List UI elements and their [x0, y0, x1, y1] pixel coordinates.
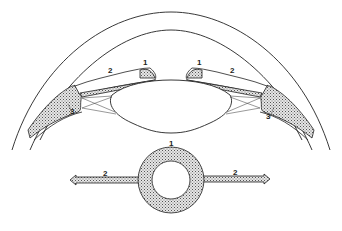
label-ciliary-right: 3: [266, 113, 270, 121]
label-dilator-right: 2: [230, 67, 234, 75]
label-arrow-left-dilator: 2: [103, 170, 107, 178]
iris-schematic: [70, 147, 270, 213]
pupil: [152, 161, 190, 199]
label-arrow-right-dilator: 2: [233, 169, 237, 177]
label-sphincter-right: 1: [197, 59, 201, 67]
eye-muscle-diagram: 1 2 3 1 2 3 1 2 2: [0, 0, 342, 231]
diagram-graphics: [0, 0, 342, 231]
lens: [110, 80, 231, 133]
label-ring-sphincter: 1: [169, 140, 173, 148]
label-dilator-left: 2: [108, 67, 112, 75]
label-ciliary-left: 3: [70, 108, 74, 116]
label-sphincter-left: 1: [143, 59, 147, 67]
